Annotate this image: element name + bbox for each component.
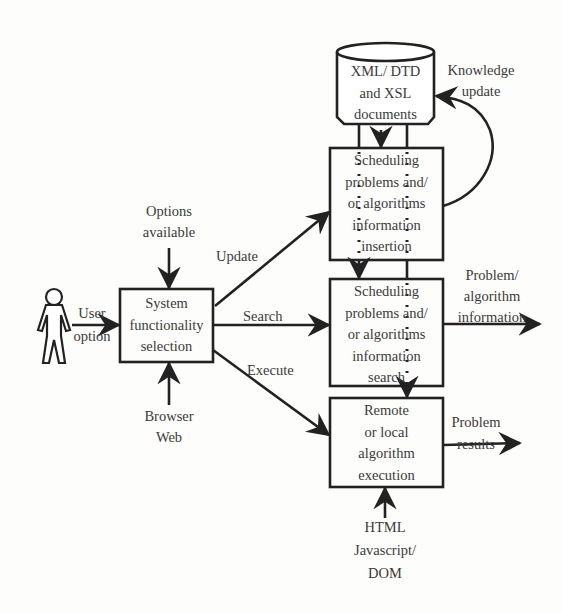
problem-algorithm-info-line: Problem/ — [452, 265, 532, 286]
options-available-label: Options available — [129, 201, 209, 243]
html-js-dom-line: DOM — [345, 562, 425, 585]
options-available-line: available — [129, 222, 209, 243]
user-option-line: option — [70, 325, 114, 348]
knowledge-update-line: Knowledge — [438, 60, 524, 81]
search-edge-label: Search — [243, 306, 282, 327]
browser-web-line: Browser — [129, 406, 209, 427]
selection-box-line: selection — [118, 336, 215, 358]
problem-algorithm-info-line: algorithm — [452, 286, 532, 307]
html-js-dom-label: HTML Javascript/ DOM — [345, 516, 425, 585]
database-label-line: and XSL — [337, 83, 434, 105]
selection-box: System functionality selection — [118, 293, 215, 358]
options-available-line: Options — [129, 201, 209, 222]
search-box-line: or algorithms — [330, 324, 443, 346]
problem-algorithm-info-label: Problem/ algorithm information — [452, 265, 532, 328]
selection-box-line: System — [118, 293, 215, 315]
execution-box-line: Remote — [330, 400, 443, 422]
database-label-line: documents — [337, 104, 434, 126]
search-box-line: Scheduling — [330, 281, 443, 303]
browser-web-label: Browser Web — [129, 406, 209, 448]
database-label-line: XML/ DTD — [337, 61, 434, 83]
browser-web-line: Web — [129, 427, 209, 448]
insertion-box: Scheduling problems and/ or algorithms i… — [330, 150, 443, 258]
execution-box-line: algorithm — [330, 443, 443, 465]
user-option-line: User — [70, 302, 114, 325]
insertion-box-line: insertion — [330, 236, 443, 258]
knowledge-update-line: update — [438, 81, 524, 102]
search-box-line: problems and/ — [330, 303, 443, 325]
html-js-dom-line: Javascript/ — [345, 539, 425, 562]
problem-results-label: Problem results — [446, 411, 506, 455]
insertion-box-line: Scheduling — [330, 150, 443, 172]
knowledge-update-arrow — [436, 96, 493, 206]
execution-box-line: execution — [330, 465, 443, 487]
database-label: XML/ DTD and XSL documents — [337, 61, 434, 126]
problem-results-line: results — [446, 433, 506, 455]
user-option-label: User option — [70, 302, 114, 348]
update-edge-label: Update — [216, 246, 258, 267]
html-js-dom-line: HTML — [345, 516, 425, 539]
search-box-line: search — [330, 367, 443, 389]
selection-box-line: functionality — [118, 315, 215, 337]
insertion-box-line: information — [330, 215, 443, 237]
search-box: Scheduling problems and/ or algorithms i… — [330, 281, 443, 389]
search-box-line: information — [330, 346, 443, 368]
user-person-icon — [38, 289, 70, 363]
execute-edge-label: Execute — [247, 360, 294, 381]
execution-box: Remote or local algorithm execution — [330, 400, 443, 486]
execution-box-line: or local — [330, 422, 443, 444]
insertion-box-line: problems and/ — [330, 172, 443, 194]
problem-algorithm-info-line: information — [452, 307, 532, 328]
knowledge-update-label: Knowledge update — [438, 60, 524, 102]
insertion-box-line: or algorithms — [330, 193, 443, 215]
problem-results-line: Problem — [446, 411, 506, 433]
